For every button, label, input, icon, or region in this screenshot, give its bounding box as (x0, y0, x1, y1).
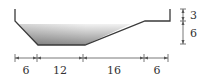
channel-cross-section-diagram: 3 6 6 12 16 6 (0, 0, 207, 79)
vertical-dim-label-6: 6 (190, 27, 197, 40)
horizontal-dimension (15, 54, 168, 62)
horizontal-dim-label-slope: 16 (107, 64, 121, 77)
vertical-dim-label-3: 3 (190, 9, 197, 22)
vertical-dimension (180, 9, 186, 44)
horizontal-dim-label-bottom: 12 (53, 64, 67, 77)
horizontal-dim-label-left-berm: 6 (23, 64, 30, 77)
horizontal-dim-label-right-berm: 6 (154, 64, 161, 77)
